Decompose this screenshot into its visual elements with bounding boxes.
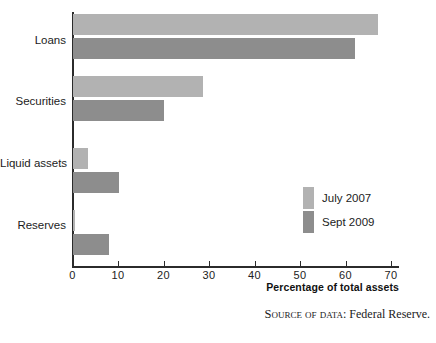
x-tick-label-40: 40 (248, 269, 261, 281)
legend-item-july-2007: July 2007 (303, 186, 374, 210)
source-note-prefix: Source of data (265, 307, 344, 321)
bar-liquid-assets-july-2007 (73, 148, 88, 169)
bar-loans-sept-2009 (73, 38, 355, 59)
x-tick-label-20: 20 (157, 269, 170, 281)
x-tick-label-10: 10 (112, 269, 125, 281)
source-note: Source of data: Federal Reserve. (150, 307, 430, 322)
x-tick-10 (118, 261, 119, 267)
source-note-value: Federal Reserve. (349, 307, 430, 321)
legend-label-july-2007: July 2007 (322, 192, 371, 204)
category-label-loans: Loans (0, 34, 66, 46)
x-tick-30 (209, 261, 210, 267)
legend-swatch-july-2007 (303, 187, 314, 209)
bar-chart-figure: 0 10 20 30 40 50 60 70 Loans Securities … (0, 0, 436, 343)
bar-reserves-july-2007 (73, 210, 75, 231)
x-tick-label-30: 30 (203, 269, 216, 281)
legend-swatch-sept-2009 (303, 211, 314, 233)
x-axis-line (72, 266, 399, 268)
plot-area: 0 10 20 30 40 50 60 70 Loans Securities … (0, 0, 436, 343)
chart-legend: July 2007 Sept 2009 (303, 186, 374, 234)
bar-liquid-assets-sept-2009 (73, 172, 119, 193)
x-tick-label-50: 50 (294, 269, 307, 281)
x-tick-40 (255, 261, 256, 267)
category-label-liquid-assets: Liquid assets (0, 157, 66, 169)
x-tick-20 (164, 261, 165, 267)
x-tick-70 (391, 261, 392, 267)
bar-securities-july-2007 (73, 76, 203, 97)
x-tick-0 (73, 261, 74, 267)
category-label-securities: Securities (0, 95, 66, 107)
x-tick-50 (300, 261, 301, 267)
bar-reserves-sept-2009 (73, 234, 109, 255)
x-tick-label-70: 70 (385, 269, 398, 281)
legend-item-sept-2009: Sept 2009 (303, 210, 374, 234)
x-tick-label-0: 0 (69, 269, 75, 281)
x-axis-title: Percentage of total assets (200, 281, 399, 293)
bar-loans-july-2007 (73, 14, 378, 35)
category-label-reserves: Reserves (0, 219, 66, 231)
legend-label-sept-2009: Sept 2009 (322, 216, 374, 228)
x-tick-60 (346, 261, 347, 267)
x-tick-label-60: 60 (339, 269, 352, 281)
bar-securities-sept-2009 (73, 100, 164, 121)
